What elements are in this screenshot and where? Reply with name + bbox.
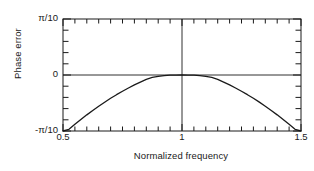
phase-error-chart: Phase error Normalized frequency π/10 0 … — [0, 0, 314, 171]
plot-area — [0, 0, 314, 171]
y-tick-label-max: π/10 — [38, 12, 58, 23]
x-tick-label-mid: 1 — [162, 131, 202, 142]
x-tick-label-min: 0.5 — [43, 131, 83, 142]
x-axis-title: Normalized frequency — [60, 150, 302, 161]
x-tick-label-max: 1.5 — [281, 131, 314, 142]
y-tick-label-zero: 0 — [53, 68, 58, 79]
y-axis-title: Phase error — [12, 4, 23, 104]
